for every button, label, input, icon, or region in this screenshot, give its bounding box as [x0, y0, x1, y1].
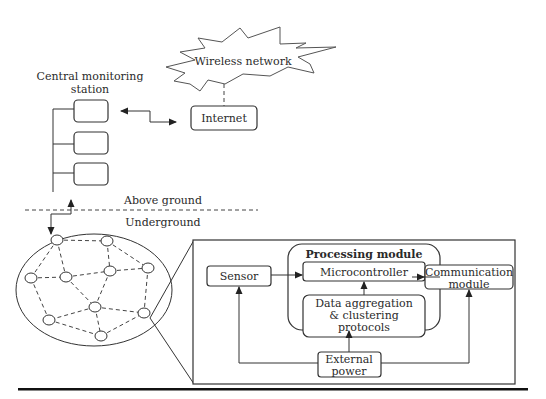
processing-module-label: Processing module	[305, 248, 422, 261]
sensor-node	[95, 331, 107, 341]
microcontroller-box: Microcontroller	[303, 262, 425, 281]
central-station-label-line1: Central monitoring	[37, 70, 144, 83]
sensor-node	[60, 272, 72, 282]
microcontroller-label: Microcontroller	[320, 266, 409, 279]
network-station-link	[51, 200, 71, 234]
data-aggregation-label-line3: protocols	[338, 321, 390, 334]
communication-module-label-line2: module	[448, 278, 489, 291]
external-power-box: External power	[318, 352, 381, 378]
sensor-node	[51, 235, 63, 245]
sensor-node	[101, 236, 113, 246]
communication-module-box: Communication module	[425, 265, 513, 291]
station-unit-1	[74, 100, 108, 122]
central-monitoring-station	[53, 100, 108, 192]
sensor-node	[142, 263, 154, 273]
figure-bottom-rule	[18, 388, 528, 391]
sensor-box: Sensor	[207, 266, 271, 286]
sensor-node	[43, 315, 55, 325]
wireless-underground-sensor-network-diagram: Wireless network Internet Central monito…	[0, 0, 546, 399]
callout-line-top	[150, 240, 194, 318]
wireless-network-cloud: Wireless network	[166, 27, 336, 91]
data-aggregation-box: Data aggregation & clustering protocols	[303, 295, 425, 337]
station-unit-2	[74, 132, 108, 154]
wireless-network-label: Wireless network	[194, 55, 292, 68]
external-power-label-line2: power	[332, 365, 368, 378]
station-unit-3	[74, 163, 108, 185]
underground-label: Underground	[125, 216, 200, 229]
callout-line-bottom	[150, 318, 194, 384]
underground-sensor-network	[16, 234, 172, 346]
sensor-node	[104, 266, 116, 276]
station-internet-link	[121, 111, 176, 122]
internet-box: Internet	[191, 106, 257, 130]
sensor-node	[89, 302, 101, 312]
sensor-node	[25, 273, 37, 283]
sensor-node	[138, 308, 150, 318]
internet-label: Internet	[201, 112, 247, 125]
sensor-label: Sensor	[220, 270, 259, 283]
above-ground-label: Above ground	[123, 194, 202, 207]
central-station-label-line2: station	[71, 83, 109, 96]
